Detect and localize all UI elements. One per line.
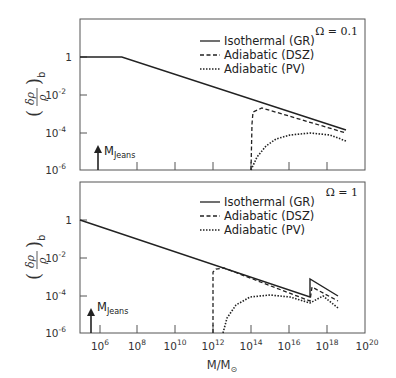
- x-axis-label: M/M⊙: [207, 358, 237, 374]
- bottom-ytick-1e-6: 10-6: [45, 325, 66, 339]
- svg-text:Adiabatic (DSZ): Adiabatic (DSZ): [224, 48, 314, 62]
- svg-text:1018: 1018: [316, 338, 339, 352]
- bottom-y-ticks: [80, 220, 87, 296]
- bottom-ytick-1e-4: 10-4: [45, 288, 66, 302]
- bottom-panel: 1 10-2 10-4 10-6 106 108 1010 1012 1014 …: [23, 182, 379, 374]
- bottom-jeans-arrow: MJeans: [87, 300, 128, 333]
- top-jeans-arrow: MJeans: [94, 144, 135, 170]
- svg-text:ρ: ρ: [36, 94, 49, 102]
- top-pv-curve: [251, 133, 346, 170]
- svg-text:1020: 1020: [356, 338, 379, 352]
- arrow-up-icon: [94, 145, 102, 153]
- top-ytick-1e-4: 10-4: [45, 125, 66, 139]
- bottom-omega-label: Ω = 1: [326, 186, 358, 199]
- top-isothermal-curve: [80, 57, 346, 130]
- top-plot-frame: [80, 19, 365, 170]
- bottom-ytick-1: 1: [65, 214, 72, 226]
- svg-text:108: 108: [128, 338, 146, 352]
- svg-text:b: b: [36, 235, 47, 241]
- bottom-legend: Isothermal (GR) Adiabatic (DSZ) Adiabati…: [200, 195, 315, 237]
- svg-text:Adiabatic (DSZ): Adiabatic (DSZ): [224, 209, 314, 223]
- chart-figure: 1 10-2 10-4 10-6 ( δρ ρ ) b Ω = 0.1 Isot…: [0, 0, 396, 378]
- svg-text:Isothermal (GR): Isothermal (GR): [224, 34, 315, 48]
- top-panel: 1 10-2 10-4 10-6 ( δρ ρ ) b Ω = 0.1 Isot…: [23, 19, 365, 176]
- bottom-jeans-label: MJeans: [97, 300, 128, 316]
- top-jeans-label: MJeans: [104, 144, 135, 160]
- svg-text:b: b: [36, 72, 47, 78]
- top-ytick-1: 1: [65, 51, 72, 63]
- arrow-up-icon: [87, 308, 95, 316]
- bottom-x-tick-labels: 106 108 1010 1012 1014 1016 1018 1020: [91, 338, 379, 352]
- svg-text:106: 106: [91, 338, 109, 352]
- top-omega-label: Ω = 0.1: [315, 25, 358, 38]
- svg-text:Adiabatic (PV): Adiabatic (PV): [224, 62, 305, 76]
- bottom-pv-curve: [223, 295, 338, 333]
- svg-text:1010: 1010: [164, 338, 187, 352]
- svg-text:): ): [23, 241, 44, 248]
- svg-text:1012: 1012: [202, 338, 225, 352]
- svg-text:(: (: [23, 273, 44, 280]
- bottom-dsz-curve: [213, 268, 338, 333]
- svg-text:Isothermal (GR): Isothermal (GR): [224, 195, 315, 209]
- top-y-ticks: [80, 57, 87, 133]
- top-ytick-1e-6: 10-6: [45, 162, 66, 176]
- svg-text:(: (: [23, 110, 44, 117]
- top-legend: Isothermal (GR) Adiabatic (DSZ) Adiabati…: [200, 34, 315, 76]
- svg-text:1014: 1014: [240, 338, 263, 352]
- svg-text:1016: 1016: [278, 338, 301, 352]
- top-dsz-curve: [251, 108, 346, 170]
- top-x-ticks: [137, 162, 327, 170]
- svg-text:Adiabatic (PV): Adiabatic (PV): [224, 223, 305, 237]
- svg-text:ρ: ρ: [36, 257, 49, 265]
- svg-text:): ): [23, 78, 44, 85]
